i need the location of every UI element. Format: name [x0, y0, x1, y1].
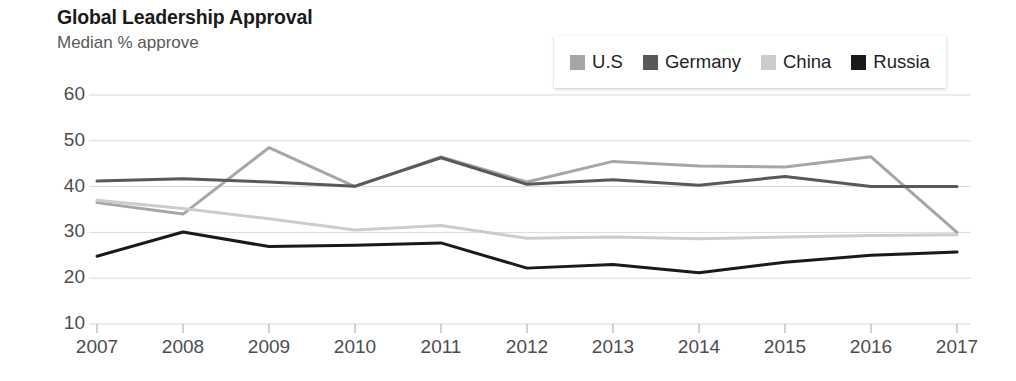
y-axis-tick-label: 10	[39, 312, 85, 334]
x-axis-tick-label: 2015	[745, 336, 825, 358]
y-axis-tick-label: 20	[39, 266, 85, 288]
x-axis-tick-label: 2007	[57, 336, 137, 358]
x-axis-tick-label: 2009	[229, 336, 309, 358]
x-axis-tick-label: 2016	[831, 336, 911, 358]
y-axis-tick-label: 50	[39, 129, 85, 151]
x-axis-tick-label: 2013	[573, 336, 653, 358]
y-axis-tick-label: 60	[39, 83, 85, 105]
x-axis-tick-label: 2014	[659, 336, 739, 358]
x-axis-tick-label: 2011	[401, 336, 481, 358]
series-line-china	[97, 200, 957, 238]
y-axis-tick-label: 40	[39, 175, 85, 197]
series-line-us	[97, 148, 957, 233]
x-axis-tick-label: 2008	[143, 336, 223, 358]
x-axis-tick-label: 2010	[315, 336, 395, 358]
plot-area	[0, 0, 1016, 381]
x-axis-tick-label: 2017	[917, 336, 997, 358]
chart-container: Global Leadership Approval Median % appr…	[0, 0, 1016, 381]
x-axis-tick-label: 2012	[487, 336, 567, 358]
y-axis-tick-label: 30	[39, 220, 85, 242]
